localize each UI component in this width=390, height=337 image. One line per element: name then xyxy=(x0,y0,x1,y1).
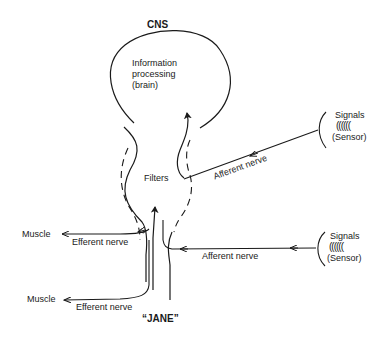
efferent-nerve-label-upper: Efferent nerve xyxy=(72,237,128,247)
cns-diagram: CNS “JANE” Information processing (brain… xyxy=(0,0,390,337)
neck-right-dashed xyxy=(174,140,192,232)
sensor-bracket-upper xyxy=(319,112,326,148)
signal-waves-icon-lower: (((((( xyxy=(329,242,343,252)
efferent-nerve-upper xyxy=(62,229,149,234)
filters-label: Filters xyxy=(144,173,169,183)
muscle-label-upper: Muscle xyxy=(22,229,51,239)
efferent-nerve-label-lower: Efferent nerve xyxy=(76,302,132,312)
diagram-lines xyxy=(0,0,390,337)
neck-right-wall xyxy=(177,113,188,178)
afferent-nerve-upper xyxy=(184,130,318,179)
signal-waves-icon-upper: (((((( xyxy=(336,121,350,131)
signals-label-upper: Signals xyxy=(335,110,365,120)
brain-label-line1: Information xyxy=(132,58,177,68)
brain-label-line2: processing xyxy=(132,69,176,79)
cns-title: CNS xyxy=(147,20,168,30)
muscle-label-lower: Muscle xyxy=(27,294,56,304)
spinal-right-line xyxy=(168,232,172,300)
efferent-nerve-lower xyxy=(64,240,149,300)
sensor-label-upper: (Sensor) xyxy=(332,132,367,142)
brain-outline xyxy=(110,31,230,128)
sensor-bracket-lower xyxy=(318,232,325,266)
spinal-up-line xyxy=(153,207,155,290)
afferent-nerve-label-lower: Afferent nerve xyxy=(202,251,258,261)
sensor-label-lower: (Sensor) xyxy=(327,253,362,263)
afferent-nerve-lower xyxy=(163,220,316,249)
jane-title: “JANE” xyxy=(142,314,179,324)
neck-left-dashed xyxy=(121,148,140,240)
brain-label-line3: (brain) xyxy=(132,80,158,90)
signals-label-lower: Signals xyxy=(330,231,360,241)
